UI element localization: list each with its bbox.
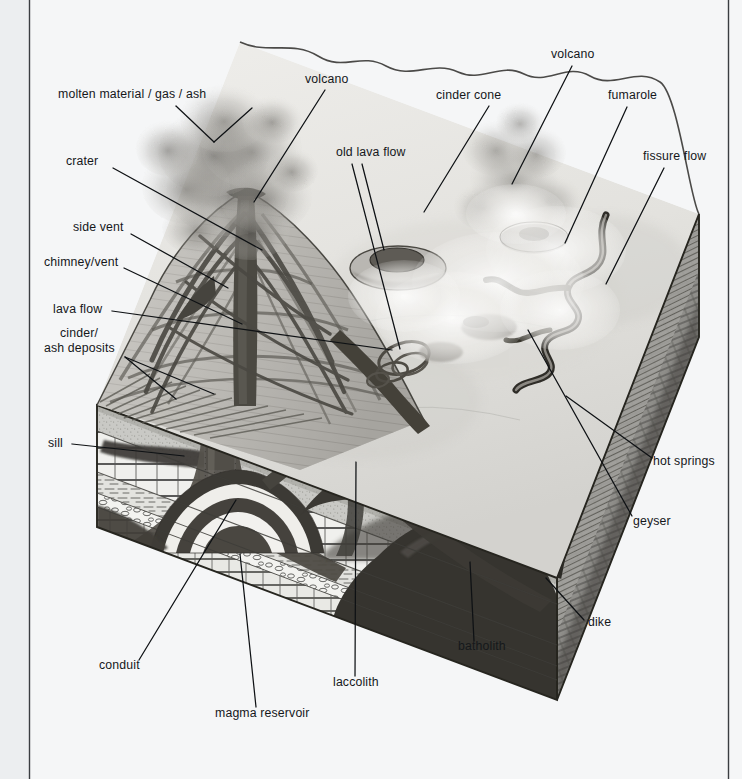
label-chimney-vent: chimney/vent	[44, 255, 119, 269]
label-cinder-cone: cinder cone	[436, 88, 501, 102]
figure-stage: molten material / gas / ash volcano cind…	[0, 0, 742, 779]
label-crater: crater	[66, 154, 98, 168]
label-lava-flow: lava flow	[53, 302, 102, 316]
label-batholith: batholith	[458, 639, 506, 653]
label-cinder-deposits-line1: cinder/	[60, 326, 98, 340]
label-geyser: geyser	[633, 514, 671, 528]
label-molten-material: molten material / gas / ash	[58, 87, 206, 101]
label-side-vent: side vent	[73, 220, 124, 234]
label-cinder-deposits-line2: ash deposits	[44, 341, 115, 355]
label-sill: sill	[48, 436, 63, 450]
label-dike: dike	[588, 615, 611, 629]
label-volcano-left: volcano	[305, 72, 348, 86]
label-volcano-right: volcano	[551, 47, 594, 61]
label-conduit: conduit	[99, 658, 140, 672]
label-fissure-flow: fissure flow	[643, 149, 706, 163]
label-magma-reservoir: magma reservoir	[215, 706, 310, 720]
label-hot-springs: hot springs	[653, 454, 715, 468]
label-laccolith: laccolith	[333, 675, 379, 689]
label-fumarole: fumarole	[608, 88, 657, 102]
label-old-lava-flow: old lava flow	[336, 145, 406, 159]
